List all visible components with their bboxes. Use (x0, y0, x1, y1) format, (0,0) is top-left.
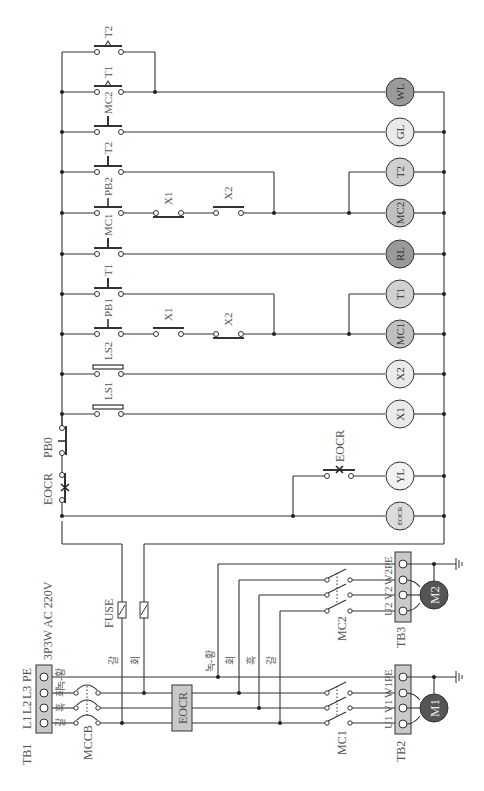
svg-text:MC2: MC2 (335, 616, 349, 641)
rung-yl: EOCR YL (293, 430, 446, 516)
svg-text:회: 회 (55, 688, 66, 697)
contact-t2-nc: T2 (94, 26, 124, 55)
svg-text:LS2: LS2 (102, 342, 114, 360)
contact-x2-no: X2 (213, 187, 244, 216)
svg-text:EOCR: EOCR (333, 430, 347, 462)
left-rail-contacts: PB0 EOCR (41, 414, 69, 521)
svg-text:PB1: PB1 (102, 298, 114, 317)
svg-text:3P3W AC 220V: 3P3W AC 220V (41, 581, 55, 660)
svg-text:흑: 흑 (54, 703, 66, 712)
pushbutton-pb1: PB1 (94, 298, 124, 336)
motor-m1: M1 (420, 694, 448, 722)
power-circuit: FUSE 갈 회 MCCB EO (20, 544, 462, 765)
svg-text:X2: X2 (394, 367, 406, 380)
contact-mc2-no: MC2 (94, 91, 124, 134)
svg-text:녹-황: 녹-황 (55, 668, 66, 690)
svg-text:PE: PE (382, 669, 394, 682)
svg-text:FUSE: FUSE (102, 599, 116, 628)
lamp-gl: GL (386, 118, 414, 146)
rung-mc1: PB1 X1 X2 MC1 (60, 298, 446, 348)
svg-text:X2: X2 (222, 187, 234, 200)
fuse-2 (140, 602, 148, 618)
coil-mc2: MC2 (386, 199, 414, 227)
coil-t1: T1 (386, 280, 414, 308)
svg-text:X2: X2 (222, 313, 234, 326)
contact-x1-nc: X1 (153, 192, 184, 217)
mc2-main-contacts: MC2 (325, 569, 352, 641)
svg-text:갈: 갈 (54, 718, 66, 727)
svg-text:TB1: TB1 (20, 744, 34, 765)
contact-t1-no: T1 (94, 264, 124, 297)
rung-rl: MC1 RL (60, 213, 446, 268)
limit-switch-ls2: LS2 (93, 342, 124, 377)
svg-text:갈: 갈 (265, 656, 277, 665)
svg-text:MC2: MC2 (102, 91, 114, 114)
coil-mc1: MC1 (386, 320, 414, 348)
svg-text:M2: M2 (427, 586, 442, 604)
svg-text:MCCB: MCCB (81, 725, 95, 760)
svg-text:X1: X1 (162, 192, 174, 205)
svg-text:MC2: MC2 (394, 202, 406, 225)
lamp-yl: YL (386, 462, 414, 490)
mc1-main-contacts: MC1 (325, 682, 352, 755)
contact-t2-no: T2 (94, 142, 124, 175)
svg-text:회: 회 (225, 656, 236, 665)
rung-x1: LS1 X1 (60, 382, 446, 428)
svg-text:EOCR: EOCR (176, 692, 190, 724)
svg-text:X1: X1 (394, 407, 406, 420)
svg-text:T1: T1 (102, 66, 114, 78)
svg-text:T1: T1 (102, 264, 114, 276)
lamp-wl: WL (386, 78, 414, 106)
motor-m2: M2 (420, 581, 448, 609)
svg-text:TB2: TB2 (394, 741, 408, 762)
ground-icon (456, 558, 462, 570)
rung-mc2: PB2 X1 X2 MC2 (60, 177, 446, 227)
svg-text:WL: WL (394, 83, 406, 100)
svg-text:EOCR: EOCR (41, 473, 55, 505)
svg-text:LS1: LS1 (102, 382, 114, 400)
terminal-block-tb1: PE L3 L2 L1 TB1 3P3W AC 220V 녹-황 회 흑 갈 (20, 581, 66, 765)
mccb: MCCB (74, 685, 100, 760)
svg-text:YL: YL (394, 468, 406, 483)
svg-text:MC1: MC1 (335, 730, 349, 755)
svg-text:T2: T2 (394, 166, 406, 178)
pushbutton-pb2: PB2 (94, 177, 124, 215)
svg-text:M1: M1 (427, 699, 442, 717)
svg-text:RL: RL (394, 247, 406, 261)
rung-x2: LS2 X2 (60, 342, 446, 388)
svg-text:PB2: PB2 (102, 177, 114, 196)
lamp-rl: RL (386, 240, 414, 268)
rung-wl: T2 T1 WL (60, 26, 444, 106)
relay-eocr: EOCR (386, 502, 414, 530)
svg-text:L2: L2 (20, 701, 34, 714)
coil-t2: T2 (386, 158, 414, 186)
terminal-block-tb2: PE W1 V1 U1 TB2 (382, 665, 411, 762)
svg-text:W2: W2 (382, 569, 394, 585)
svg-text:흑: 흑 (245, 656, 257, 665)
fuse-1 (118, 602, 126, 618)
svg-text:EOCR: EOCR (396, 506, 404, 525)
svg-text:MC1: MC1 (394, 323, 406, 346)
svg-text:X1: X1 (162, 308, 174, 321)
stop-button-pb0: PB0 (41, 426, 66, 459)
contact-x2-nc: X2 (213, 313, 244, 338)
svg-text:갈: 갈 (107, 656, 119, 665)
svg-text:PE: PE (382, 556, 394, 569)
limit-switch-ls1: LS1 (93, 382, 124, 417)
coil-x2: X2 (386, 360, 414, 388)
rung-eocr: EOCR (62, 502, 446, 530)
svg-text:TB3: TB3 (394, 627, 408, 648)
contact-x1-no: X1 (153, 308, 184, 337)
svg-text:PB0: PB0 (41, 437, 55, 458)
svg-text:V1: V1 (382, 700, 394, 713)
coil-x1: X1 (386, 400, 414, 428)
svg-text:MC1: MC1 (102, 213, 114, 236)
svg-text:회: 회 (130, 656, 141, 665)
contact-t1-nc: T1 (94, 66, 124, 95)
svg-text:U1: U1 (382, 716, 394, 729)
svg-text:GL: GL (394, 124, 406, 139)
svg-text:T2: T2 (102, 26, 114, 38)
svg-text:T1: T1 (394, 288, 406, 300)
rung-t1: T1 T1 (60, 264, 446, 334)
eocr-no-contact: EOCR (323, 430, 355, 479)
